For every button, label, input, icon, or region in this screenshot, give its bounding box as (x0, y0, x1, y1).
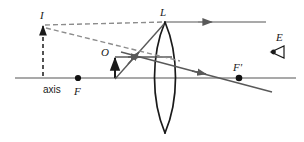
label-eye: E (275, 31, 283, 43)
focal-point-F-prime (236, 75, 243, 82)
label-lens-top: L (159, 6, 166, 18)
label-image-point: I (39, 9, 45, 21)
virtual-ray-extension-oblique (46, 28, 180, 61)
virtual-ray-extension-horizontal (45, 22, 164, 25)
label-focal-near: F (73, 85, 81, 97)
label-axis: axis (43, 84, 61, 95)
label-focal-far: F' (232, 61, 243, 73)
focal-point-F (75, 75, 81, 81)
optics-ray-diagram: I L O F F' E axis (0, 0, 304, 142)
eye-icon (271, 46, 284, 58)
label-object-point: O (101, 46, 109, 58)
refracted-ray-through-focus-arrow (192, 71, 206, 74)
ray-diagram-canvas: I L O F F' E axis (0, 0, 304, 142)
